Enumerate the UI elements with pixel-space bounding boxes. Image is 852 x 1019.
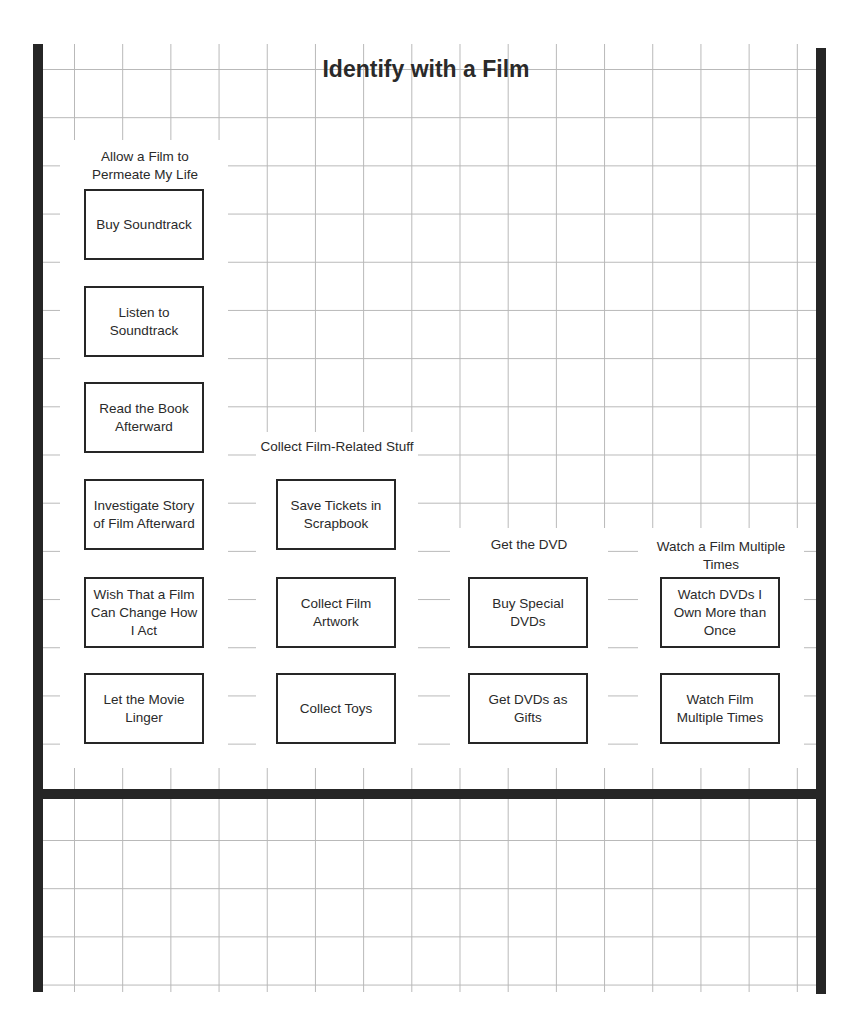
group-label-dvd: Get the DVD [450, 536, 608, 554]
group-label-collect: Collect Film-Related Stuff [256, 438, 418, 456]
group-label-watch: Watch a Film Multiple Times [638, 538, 804, 574]
right-border-bar [816, 48, 826, 994]
card-listen-soundtrack[interactable]: Listen to Soundtrack [84, 286, 204, 357]
card-collect-toys[interactable]: Collect Toys [276, 673, 396, 744]
card-buy-special-dvds[interactable]: Buy Special DVDs [468, 577, 588, 648]
card-buy-soundtrack[interactable]: Buy Soundtrack [84, 189, 204, 260]
card-watch-dvds-own[interactable]: Watch DVDs I Own More than Once [660, 577, 780, 648]
diagram-title: Identify with a Film [200, 56, 652, 83]
card-wish-change[interactable]: Wish That a Film Can Change How I Act [84, 577, 204, 648]
card-let-linger[interactable]: Let the Movie Linger [84, 673, 204, 744]
card-watch-multiple[interactable]: Watch Film Multiple Times [660, 673, 780, 744]
card-investigate-story[interactable]: Investigate Story of Film Afterward [84, 479, 204, 550]
horizontal-divider-bar [40, 789, 826, 799]
card-dvds-gifts[interactable]: Get DVDs as Gifts [468, 673, 588, 744]
card-save-tickets[interactable]: Save Tickets in Scrapbook [276, 479, 396, 550]
group-label-permeate: Allow a Film to Permeate My Life [84, 148, 206, 184]
card-read-book[interactable]: Read the Book Afterward [84, 382, 204, 453]
left-border-bar [33, 44, 43, 992]
card-collect-artwork[interactable]: Collect Film Artwork [276, 577, 396, 648]
